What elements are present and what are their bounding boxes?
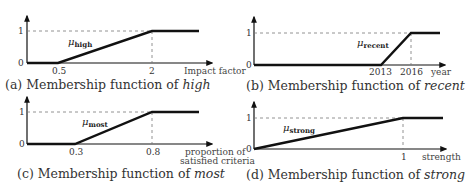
x-tick-0: 2013 <box>369 67 392 77</box>
y-tick-1: 1 <box>18 26 24 36</box>
caption-a: (a) Membership function of high <box>5 77 211 92</box>
membership-curve <box>254 33 440 65</box>
x-tick-0: 1 <box>401 152 407 162</box>
panel-b-chart: 0 1 2013 2016 year μrecent <box>246 17 452 77</box>
membership-curve <box>27 112 199 144</box>
series-label: μstrong <box>283 122 315 135</box>
y-tick-0: 0 <box>246 60 252 70</box>
figure-canvas: 0 1 0.5 2 Impact factor μhigh 0 1 2013 2… <box>0 0 469 192</box>
caption-b: (b) Membership function of recent <box>246 78 465 93</box>
panel-a-chart: 0 1 0.5 2 Impact factor μhigh <box>18 16 247 76</box>
x-tick-0: 0.5 <box>52 66 67 76</box>
membership-curve <box>27 31 199 63</box>
caption-c: (c) Membership function of most <box>17 166 225 181</box>
x-tick-0: 0.3 <box>69 147 84 157</box>
x-axis-label: strength <box>422 152 461 162</box>
panel-c-chart: 0 1 0.3 0.8 proportion of satisfied crit… <box>19 97 255 166</box>
x-tick-1: 0.8 <box>146 147 161 157</box>
x-tick-1: 2 <box>149 66 155 76</box>
series-label: μhigh <box>68 36 92 49</box>
series-label: μrecent <box>357 37 389 50</box>
y-tick-0: 0 <box>19 139 25 149</box>
y-tick-1: 1 <box>19 107 25 117</box>
caption-d: (d) Membership function of strong <box>246 167 465 182</box>
y-tick-0: 0 <box>246 144 252 154</box>
x-axis-label: Impact factor <box>184 66 247 76</box>
x-axis-label: year <box>430 67 452 77</box>
series-label: μmost <box>82 116 109 129</box>
x-axis-label-line2: satisfied criteria <box>180 156 255 166</box>
x-tick-1: 2016 <box>400 67 423 77</box>
y-tick-1: 1 <box>246 28 252 38</box>
y-tick-1: 1 <box>246 113 252 123</box>
y-tick-0: 0 <box>18 58 24 68</box>
panel-d-chart: 0 1 1 strength μstrong <box>246 102 461 162</box>
